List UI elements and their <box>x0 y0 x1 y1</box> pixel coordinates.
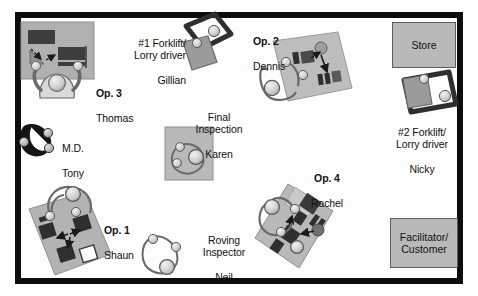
label-forklift-2-person: Nicky <box>380 163 464 176</box>
label-forklift-1-person: Gillian <box>104 74 186 87</box>
label-op-2: Op. 2 Dennis <box>253 22 313 85</box>
label-forklift-1-role: #1 Forklift/ Lorry driver <box>104 37 186 62</box>
factory-layout-diagram: Store Facilitator/ Customer Op. 3 Thomas… <box>0 0 478 296</box>
label-op-1-person: Shaun <box>104 249 160 262</box>
label-forklift-1: #1 Forklift/ Lorry driver Gillian <box>104 24 186 99</box>
label-forklift-2: #2 Forklift/ Lorry driver Nicky <box>380 113 464 188</box>
room-facilitator-customer: Facilitator/ Customer <box>390 218 458 268</box>
label-op-3-person: Thomas <box>96 112 156 125</box>
label-op-1: Op. 1 Shaun <box>104 211 160 274</box>
label-md: M.D. Tony <box>62 129 112 192</box>
label-roving-inspector-role: Roving Inspector <box>186 234 262 259</box>
label-op-4-role: Op. 4 <box>296 172 358 185</box>
label-final-inspection-person: Karen <box>183 148 255 161</box>
label-op-4-person: Rachel <box>296 197 358 210</box>
label-forklift-2-role: #2 Forklift/ Lorry driver <box>380 126 464 151</box>
label-md-person: Tony <box>62 167 112 180</box>
label-roving-inspector: Roving Inspector Neil <box>186 221 262 296</box>
label-final-inspection: Final Inspection Karen <box>183 98 255 173</box>
label-op-2-role: Op. 2 <box>253 35 313 48</box>
label-op-4: Op. 4 Rachel <box>296 159 358 222</box>
label-op-2-person: Dennis <box>253 60 313 73</box>
label-final-inspection-role: Final Inspection <box>183 111 255 136</box>
label-roving-inspector-person: Neil <box>186 271 262 284</box>
label-md-role: M.D. <box>62 142 112 155</box>
label-op-1-role: Op. 1 <box>104 224 160 237</box>
room-store: Store <box>392 22 456 68</box>
